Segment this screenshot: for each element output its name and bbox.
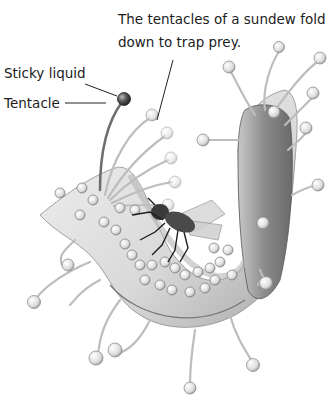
sticky-liquid-label: Sticky liquid (4, 65, 86, 81)
sundew-illustration (0, 0, 331, 395)
caption-label: The tentacles of a sundew fold down to t… (118, 8, 331, 54)
tentacle-label: Tentacle (4, 95, 60, 111)
